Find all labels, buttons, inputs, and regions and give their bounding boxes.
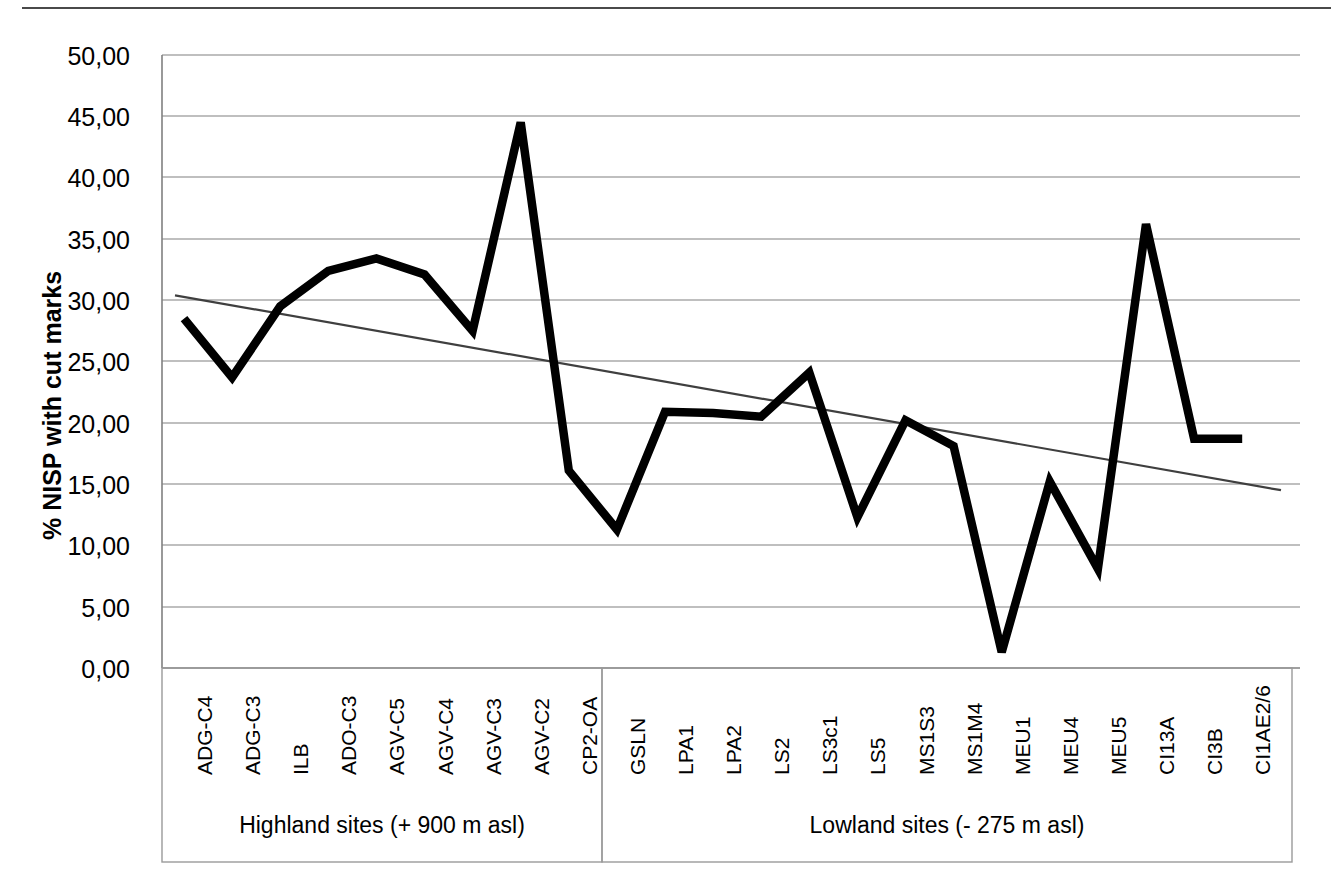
category-label-lpa2: LPA2 [722, 725, 746, 775]
group-label-highland: Highland sites (+ 900 m asl) [162, 812, 602, 839]
category-label-meu1: MEU1 [1011, 717, 1035, 775]
category-label-ci3b: CI3B [1203, 728, 1227, 775]
category-label-gsln: GSLN [626, 718, 650, 775]
data-series-line [184, 122, 1242, 652]
category-label-ms1s3: MS1S3 [915, 706, 939, 775]
group-label-lowland: Lowland sites (- 275 m asl) [602, 812, 1292, 839]
category-label-meu5: MEU5 [1107, 717, 1131, 775]
category-label-agv-c3: AGV-C3 [482, 698, 506, 775]
category-label-ms1m4: MS1M4 [963, 703, 987, 775]
category-label-agv-c5: AGV-C5 [385, 698, 409, 775]
category-label-agv-c2: AGV-C2 [530, 698, 554, 775]
category-label-ci1ae2-6: CI1AE2/6 [1251, 685, 1275, 775]
category-label-ls2: LS2 [770, 738, 794, 775]
category-label-cp2-oa: CP2-OA [578, 697, 602, 775]
category-label-lpa1: LPA1 [674, 725, 698, 775]
category-label-ci13a: CI13A [1155, 717, 1179, 775]
category-label-ado-c3: ADO-C3 [337, 696, 361, 775]
category-label-adg-c4: ADG-C4 [193, 696, 217, 775]
category-label-ilb: ILB [289, 743, 313, 775]
category-label-ls5: LS5 [866, 738, 890, 775]
chart-figure: % NISP with cut marks 50,00 45,00 40,00 … [0, 0, 1331, 888]
category-label-meu4: MEU4 [1059, 717, 1083, 775]
category-label-agv-c4: AGV-C4 [434, 698, 458, 775]
category-label-ls3c1: LS3c1 [818, 715, 842, 775]
category-label-adg-c3: ADG-C3 [241, 696, 265, 775]
